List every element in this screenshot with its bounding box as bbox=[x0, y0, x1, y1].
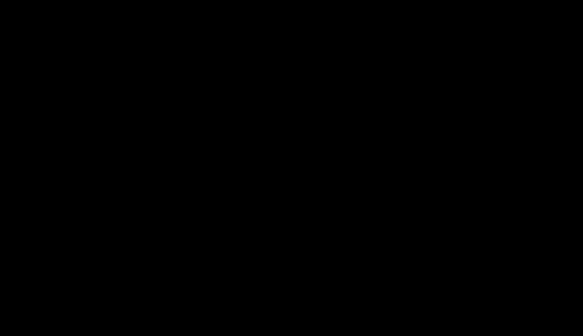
figure-background bbox=[0, 0, 583, 336]
go-board-figure bbox=[0, 0, 583, 336]
go-board[interactable] bbox=[0, 0, 583, 336]
